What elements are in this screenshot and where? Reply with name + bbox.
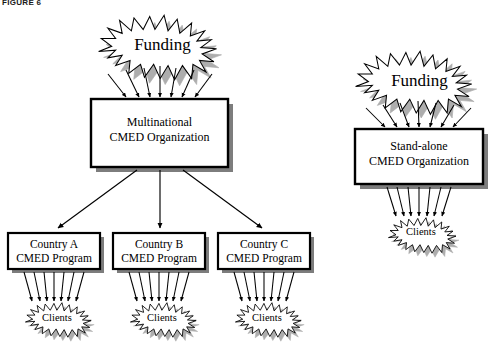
country-c-label-line1: Country C <box>219 238 309 250</box>
figure-canvas: FIGURE 6 Funding Multinational CMED Orga… <box>0 0 495 342</box>
org-to-programs-arrows <box>58 170 262 228</box>
branch-multinational <box>8 15 314 341</box>
diagram-svg <box>0 0 495 342</box>
clients-starburst-standalone <box>389 218 460 257</box>
country-b-label-line2: CMED Program <box>114 252 204 264</box>
standalone-org-label-line2: CMED Organization <box>357 155 481 168</box>
country-c-label-line2: CMED Program <box>219 252 309 264</box>
figure-label: FIGURE 6 <box>2 0 41 7</box>
country-c-to-clients-arrows <box>234 272 294 301</box>
clients-label-a: Clients <box>26 312 88 323</box>
country-a-label-line1: Country A <box>9 238 99 250</box>
standalone-org-label-line1: Stand-alone <box>357 140 481 153</box>
multinational-org-label-line2: CMED Organization <box>93 131 226 144</box>
standalone-to-clients-arrows <box>387 187 451 216</box>
country-a-label-line2: CMED Program <box>9 252 99 264</box>
funding-label-right: Funding <box>368 72 471 90</box>
country-b-label-line1: Country B <box>114 238 204 250</box>
clients-label-standalone: Clients <box>390 226 452 237</box>
funding-label-left: Funding <box>110 36 215 54</box>
multinational-org-label-line1: Multinational <box>93 116 226 129</box>
clients-label-c: Clients <box>236 312 298 323</box>
country-a-to-clients-arrows <box>24 272 84 301</box>
country-b-to-clients-arrows <box>129 272 189 301</box>
clients-label-b: Clients <box>131 312 193 323</box>
